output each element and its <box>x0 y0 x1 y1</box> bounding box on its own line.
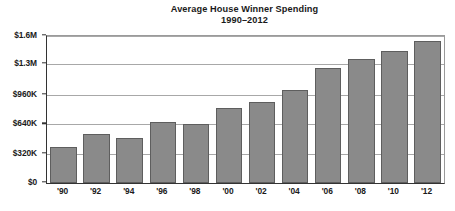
chart-title-main: Average House Winner Spending <box>46 4 443 15</box>
y-tick-label: $1.3M <box>14 58 37 68</box>
x-tick-label: '00 <box>222 186 233 196</box>
x-tick-label: '94 <box>123 186 134 196</box>
y-tick-label: $640K <box>13 118 37 128</box>
bar-chart-figure: Average House Winner Spending 1990–2012 … <box>0 0 455 211</box>
bar[interactable] <box>116 138 142 183</box>
bar[interactable] <box>150 122 176 183</box>
x-tick-label: '96 <box>156 186 167 196</box>
chart-title: Average House Winner Spending 1990–2012 <box>46 4 443 26</box>
x-tick-label: '90 <box>57 186 68 196</box>
x-tick-label: '10 <box>388 186 399 196</box>
x-tick-label: '06 <box>322 186 333 196</box>
bar[interactable] <box>315 68 341 183</box>
bar[interactable] <box>216 108 242 183</box>
bar[interactable] <box>83 134 109 183</box>
x-tick-label: '08 <box>355 186 366 196</box>
y-tick-label: $0 <box>28 177 37 187</box>
x-tick-label: '02 <box>256 186 267 196</box>
bar[interactable] <box>381 51 407 183</box>
plot-area <box>46 35 445 184</box>
bar[interactable] <box>414 41 440 183</box>
chart-title-subtitle: 1990–2012 <box>46 15 443 26</box>
y-tick-label: $1.6M <box>14 30 37 40</box>
bars-layer <box>47 36 444 183</box>
y-tick-label: $320K <box>13 148 37 158</box>
x-tick-label: '98 <box>189 186 200 196</box>
bar[interactable] <box>183 124 209 183</box>
x-tick-label: '92 <box>90 186 101 196</box>
bar[interactable] <box>282 90 308 183</box>
y-tick-label: $960K <box>13 89 37 99</box>
bar[interactable] <box>348 59 374 183</box>
x-tick-label: '12 <box>421 186 432 196</box>
x-axis: '90'92'94'96'98'00'02'04'06'08'10'12 <box>46 184 443 200</box>
bar[interactable] <box>50 147 76 183</box>
bar[interactable] <box>249 102 275 183</box>
y-axis: $0$320K$640K$960K$1.3M$1.6M <box>0 35 42 182</box>
x-tick-label: '04 <box>289 186 300 196</box>
